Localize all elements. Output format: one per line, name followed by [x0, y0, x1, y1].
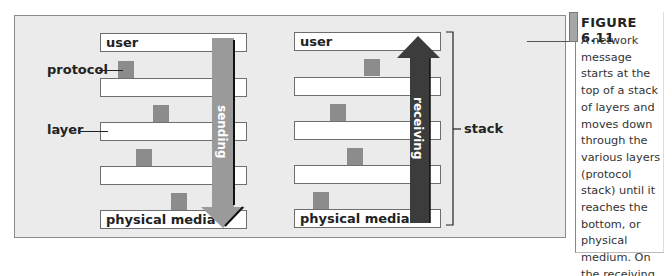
- caption-connector: [527, 41, 570, 42]
- receiving-arrow-label: receiving: [411, 97, 425, 160]
- sending-arrow-label: sending: [215, 105, 229, 159]
- stack-bracket: [446, 32, 461, 225]
- caption-tab: [569, 12, 578, 42]
- figure-caption: A network message starts at the top of a…: [581, 33, 665, 276]
